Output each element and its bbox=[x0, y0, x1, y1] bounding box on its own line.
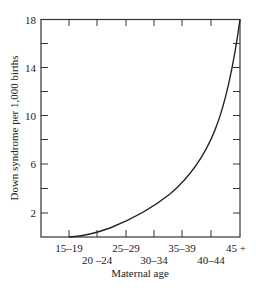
x-tick-label-30-34: 30–34 bbox=[140, 254, 168, 266]
y-axis-label: Down syndrome per 1,000 births bbox=[8, 55, 20, 200]
y-tick-label-6: 6 bbox=[31, 158, 37, 170]
y-tick-label-18: 18 bbox=[25, 14, 37, 26]
y-tick-label-2: 2 bbox=[31, 207, 37, 219]
y-ticks-right bbox=[233, 44, 240, 214]
x-tick-label-20-24: 20 –24 bbox=[82, 254, 113, 266]
y-tick-label-14: 14 bbox=[25, 62, 37, 74]
y-tick-label-10: 10 bbox=[25, 110, 37, 122]
x-tick-label-45-plus: 45 + bbox=[226, 242, 246, 254]
x-tick-label-25-29: 25–29 bbox=[112, 242, 140, 254]
incidence-curve bbox=[69, 20, 240, 238]
y-ticks-left bbox=[41, 44, 48, 214]
x-tick-label-15-19: 15–19 bbox=[55, 242, 83, 254]
x-tick-label-35-39: 35–39 bbox=[168, 242, 196, 254]
down-syndrome-chart: 18 14 10 6 2 Down syndrome per 1,000 bir… bbox=[0, 0, 256, 288]
x-tick-label-40-44: 40–44 bbox=[197, 254, 225, 266]
x-ticks-top bbox=[69, 20, 211, 27]
x-axis-label: Maternal age bbox=[111, 267, 169, 279]
plot-frame bbox=[41, 20, 240, 238]
